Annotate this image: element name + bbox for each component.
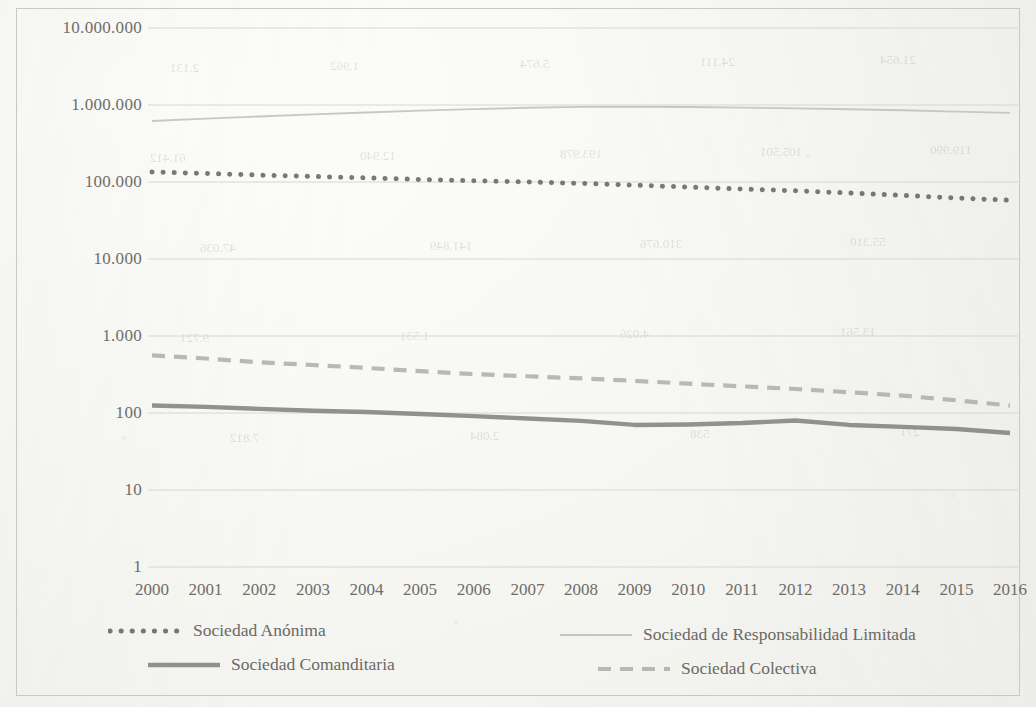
x-axis-tick-label: 2008: [564, 580, 598, 600]
solid-thick-line-swatch: [146, 658, 222, 672]
dashed-line-swatch: [596, 662, 672, 676]
x-axis-tick-label: 2001: [189, 580, 223, 600]
x-axis-tick-label: 2002: [242, 580, 276, 600]
x-axis-tick-label: 2014: [886, 580, 920, 600]
legend-item-label: Sociedad Anónima: [193, 620, 326, 641]
y-axis-tick-label: 10.000: [20, 249, 142, 269]
y-axis-tick-label: 1.000.000: [20, 95, 142, 115]
legend-item[interactable]: Sociedad Anónima: [108, 620, 326, 641]
x-axis-tick-label: 2012: [779, 580, 813, 600]
x-axis-tick-label: 2005: [403, 580, 437, 600]
y-axis-tick-label: 1: [20, 557, 142, 577]
x-axis-tick-label: 2010: [671, 580, 705, 600]
x-axis-tick-label: 2015: [939, 580, 973, 600]
y-axis-tick-label: 100.000: [20, 172, 142, 192]
dotted-line-swatch: [108, 624, 184, 638]
y-axis-tick-label: 10.000.000: [20, 18, 142, 38]
legend-item[interactable]: Sociedad Comanditaria: [146, 654, 395, 675]
x-axis-tick-label: 2000: [135, 580, 169, 600]
x-axis-tick-label: 2007: [510, 580, 544, 600]
y-axis-tick-label: 10: [20, 480, 142, 500]
x-axis-tick-label: 2016: [993, 580, 1027, 600]
y-axis-tick-label: 1.000: [20, 326, 142, 346]
chart-legend: Sociedad AnónimaSociedad de Responsabili…: [108, 616, 988, 684]
y-axis-tick-label: 100: [20, 403, 142, 423]
x-axis-tick-label: 2009: [618, 580, 652, 600]
x-axis-tick-label: 2011: [725, 580, 758, 600]
scanned-page: 2.1311.9625.67424.11121.65461.41212.9401…: [0, 0, 1036, 707]
x-axis-tick-label: 2006: [457, 580, 491, 600]
legend-item-label: Sociedad Comanditaria: [231, 654, 395, 675]
legend-item-label: Sociedad Colectiva: [681, 658, 817, 679]
x-axis-tick-label: 2003: [296, 580, 330, 600]
x-axis-tick-label: 2013: [832, 580, 866, 600]
solid-thin-line-swatch: [558, 628, 634, 642]
legend-item[interactable]: Sociedad de Responsabilidad Limitada: [558, 624, 916, 645]
legend-item[interactable]: Sociedad Colectiva: [596, 658, 817, 679]
legend-item-label: Sociedad de Responsabilidad Limitada: [643, 624, 916, 645]
x-axis-tick-label: 2004: [350, 580, 384, 600]
